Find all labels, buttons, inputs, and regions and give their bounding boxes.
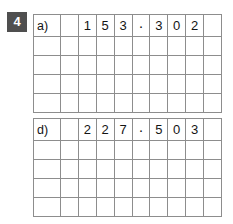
grid-d-header-cell-4[interactable]: 7 xyxy=(114,119,132,141)
grid-d-cell[interactable] xyxy=(204,160,222,179)
grid-d-cell[interactable] xyxy=(78,179,96,198)
grid-a-header-cell-6[interactable]: 3 xyxy=(150,15,168,37)
grid-d-decimal-separator-cell[interactable]: · xyxy=(132,119,150,141)
grid-a-cell[interactable] xyxy=(150,94,168,113)
grid-a-cell[interactable] xyxy=(168,94,186,113)
grid-d-cell[interactable] xyxy=(204,141,222,160)
grid-a-cell[interactable] xyxy=(204,56,222,75)
grid-d-cell[interactable] xyxy=(204,198,222,217)
grid-a-cell[interactable] xyxy=(186,37,204,56)
grid-a-cell[interactable] xyxy=(186,75,204,94)
grid-a-cell[interactable] xyxy=(150,75,168,94)
grid-d-cell[interactable] xyxy=(186,198,204,217)
grid-d-cell[interactable] xyxy=(186,160,204,179)
grid-d-header-cell-2[interactable]: 2 xyxy=(78,119,96,141)
grid-d-cell[interactable] xyxy=(96,198,114,217)
grid-d-cell[interactable] xyxy=(61,141,79,160)
grid-a-cell[interactable] xyxy=(204,75,222,94)
grid-a-decimal-separator-cell[interactable]: · xyxy=(132,15,150,37)
grid-d-cell[interactable] xyxy=(96,160,114,179)
grid-d-cell[interactable] xyxy=(114,141,132,160)
grid-a-header-cell-4[interactable]: 3 xyxy=(114,15,132,37)
grid-a-cell[interactable] xyxy=(132,37,150,56)
grid-a-cell[interactable] xyxy=(150,37,168,56)
grid-d-cell[interactable] xyxy=(132,198,150,217)
grid-a-cell[interactable] xyxy=(186,94,204,113)
grid-d-cell[interactable] xyxy=(96,179,114,198)
grid-a-cell[interactable] xyxy=(204,94,222,113)
grid-d-cell[interactable] xyxy=(61,179,79,198)
grid-a-answer-row xyxy=(34,37,222,56)
grid-a-cell[interactable] xyxy=(168,56,186,75)
grid-a-cell[interactable] xyxy=(204,37,222,56)
grid-d-cell[interactable] xyxy=(78,160,96,179)
grid-a-cell[interactable] xyxy=(34,37,61,56)
grid-d-cell[interactable] xyxy=(186,141,204,160)
grid-a-cell[interactable] xyxy=(114,37,132,56)
grid-a-cell[interactable] xyxy=(78,75,96,94)
grid-d-cell[interactable] xyxy=(168,160,186,179)
grid-d-cell[interactable] xyxy=(114,198,132,217)
grid-a-cell[interactable] xyxy=(114,56,132,75)
grid-d-cell[interactable] xyxy=(150,160,168,179)
grid-a-header-cell-9[interactable] xyxy=(204,15,222,37)
grid-a-cell[interactable] xyxy=(78,94,96,113)
grid-a-cell[interactable] xyxy=(132,94,150,113)
grid-a-cell[interactable] xyxy=(132,56,150,75)
grid-a-cell[interactable] xyxy=(150,56,168,75)
grid-d-header-cell-7[interactable]: 0 xyxy=(168,119,186,141)
grid-a-cell[interactable] xyxy=(34,56,61,75)
grid-a-cell[interactable] xyxy=(186,56,204,75)
grid-a-header-cell-8[interactable]: 2 xyxy=(186,15,204,37)
grid-d-cell[interactable] xyxy=(204,179,222,198)
grid-a-cell[interactable] xyxy=(61,94,79,113)
grid-a-cell[interactable] xyxy=(61,56,79,75)
grid-a-header-cell-1[interactable] xyxy=(61,15,79,37)
grid-d-header-cell-8[interactable]: 3 xyxy=(186,119,204,141)
grid-d-cell[interactable] xyxy=(34,160,61,179)
grid-a-cell[interactable] xyxy=(61,37,79,56)
grid-a-cell[interactable] xyxy=(78,56,96,75)
grid-a-cell[interactable] xyxy=(96,56,114,75)
grid-d-cell[interactable] xyxy=(168,179,186,198)
grid-d-cell[interactable] xyxy=(132,179,150,198)
grid-d-cell[interactable] xyxy=(61,160,79,179)
grid-a-header-row: a) 1 5 3 · 3 0 2 xyxy=(34,15,222,37)
grid-a-header-cell-3[interactable]: 5 xyxy=(96,15,114,37)
grid-a-cell[interactable] xyxy=(34,75,61,94)
grid-d-cell[interactable] xyxy=(78,198,96,217)
grid-d-header-cell-9[interactable] xyxy=(204,119,222,141)
grid-a-cell[interactable] xyxy=(96,37,114,56)
grid-d-cell[interactable] xyxy=(168,141,186,160)
grid-d-cell[interactable] xyxy=(168,198,186,217)
grid-a-cell[interactable] xyxy=(34,94,61,113)
grid-d-cell[interactable] xyxy=(150,141,168,160)
grid-d-cell[interactable] xyxy=(114,160,132,179)
grid-d-cell[interactable] xyxy=(34,179,61,198)
grid-a-cell[interactable] xyxy=(61,75,79,94)
grid-d-cell[interactable] xyxy=(61,198,79,217)
grid-d-cell[interactable] xyxy=(34,198,61,217)
grid-d-cell[interactable] xyxy=(132,160,150,179)
grid-a-cell[interactable] xyxy=(114,94,132,113)
grid-d-cell[interactable] xyxy=(78,141,96,160)
grid-a-cell[interactable] xyxy=(168,75,186,94)
grid-a-cell[interactable] xyxy=(78,37,96,56)
grid-a-header-cell-2[interactable]: 1 xyxy=(78,15,96,37)
grid-d-cell[interactable] xyxy=(132,141,150,160)
grid-d-header-cell-1[interactable] xyxy=(61,119,79,141)
grid-d-cell[interactable] xyxy=(150,179,168,198)
grid-d-header-cell-3[interactable]: 2 xyxy=(96,119,114,141)
grid-d-cell[interactable] xyxy=(96,141,114,160)
grid-d-cell[interactable] xyxy=(150,198,168,217)
grid-d-cell[interactable] xyxy=(34,141,61,160)
grid-a-cell[interactable] xyxy=(132,75,150,94)
grid-d-cell[interactable] xyxy=(186,179,204,198)
grid-d-cell[interactable] xyxy=(114,179,132,198)
grid-a-cell[interactable] xyxy=(96,94,114,113)
grid-a-header-cell-7[interactable]: 0 xyxy=(168,15,186,37)
grid-d-header-cell-6[interactable]: 5 xyxy=(150,119,168,141)
grid-a-cell[interactable] xyxy=(168,37,186,56)
grid-a-cell[interactable] xyxy=(114,75,132,94)
grid-a-cell[interactable] xyxy=(96,75,114,94)
